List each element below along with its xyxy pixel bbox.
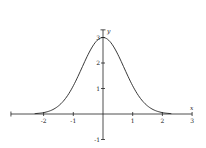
x-tick-label: 3 (190, 117, 194, 124)
x-tick-label: 1 (131, 117, 135, 124)
x-axis-label: x (190, 104, 194, 111)
tick-labels: -2-1123-1123 (41, 34, 195, 143)
y-tick-label: 1 (96, 85, 100, 92)
x-tick-label: -1 (70, 117, 76, 124)
x-tick-label: -2 (41, 117, 47, 124)
y-tick-label: 2 (96, 59, 100, 66)
x-tick-label: 2 (160, 117, 164, 124)
ticks (44, 38, 193, 140)
gaussian-chart: -2-1123-1123 x y (0, 0, 206, 148)
y-axis-label: y (106, 27, 111, 35)
y-tick-label: -1 (94, 136, 100, 143)
axes (11, 30, 192, 140)
